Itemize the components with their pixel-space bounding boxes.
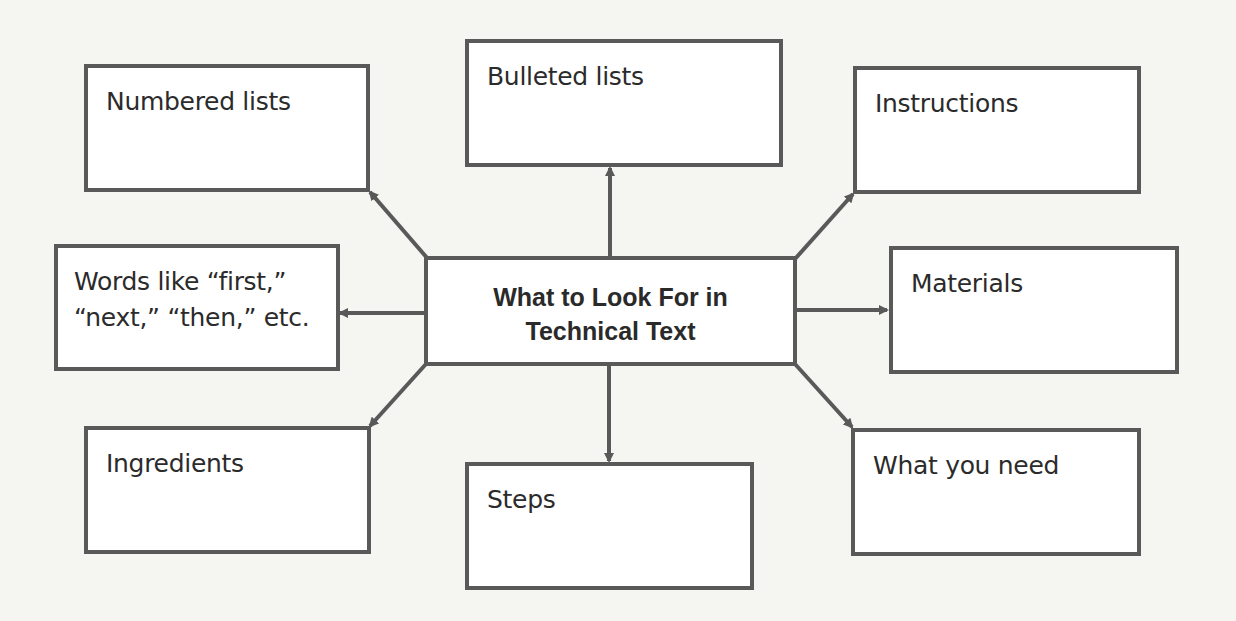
node-label: Numbered lists — [106, 84, 291, 120]
node-what-you-need: What you need — [851, 428, 1141, 556]
arrow-to-what-you-need — [795, 364, 852, 427]
center-node: What to Look For in Technical Text — [424, 256, 797, 366]
concept-web-diagram: What to Look For in Technical Text Numbe… — [0, 0, 1236, 621]
node-numbered-lists: Numbered lists — [84, 64, 370, 192]
node-label: Bulleted lists — [487, 59, 644, 95]
node-label: Words like “first,” “next,” “then,” etc. — [74, 264, 309, 336]
node-bulleted-lists: Bulleted lists — [465, 39, 783, 167]
node-ingredients: Ingredients — [84, 426, 371, 554]
arrow-to-ingredients — [370, 364, 426, 426]
center-node-label: What to Look For in Technical Text — [428, 280, 793, 348]
node-instructions: Instructions — [853, 66, 1141, 194]
node-label: Materials — [911, 266, 1023, 302]
node-label: What you need — [873, 448, 1059, 484]
node-label: Steps — [487, 482, 555, 518]
node-materials: Materials — [889, 246, 1179, 374]
node-label: Ingredients — [106, 446, 244, 482]
node-steps: Steps — [465, 462, 754, 590]
node-words-like: Words like “first,” “next,” “then,” etc. — [54, 244, 340, 371]
arrow-to-numbered-lists — [370, 192, 428, 259]
node-label: Instructions — [875, 86, 1018, 122]
arrow-to-instructions — [795, 194, 853, 259]
